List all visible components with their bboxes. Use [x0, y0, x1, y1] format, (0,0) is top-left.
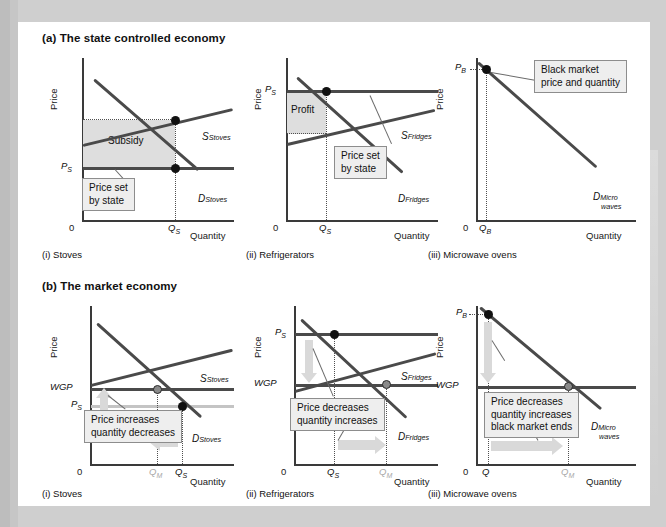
- x-tick-qb: QB: [479, 222, 491, 235]
- panel-a-iii: Price 0 Quantity PB QB DMicrowaves Black…: [428, 52, 638, 247]
- demand-curve-label: DFridges: [398, 194, 429, 204]
- y-tick-ps: PS: [275, 326, 286, 339]
- origin-label: 0: [69, 222, 74, 233]
- callout-price-decreases: Price decreasesquantity increases: [290, 398, 385, 431]
- qs-dotted-line: [326, 91, 327, 220]
- x-tick-qs: QS: [327, 466, 339, 479]
- y-tick-pb: PB: [456, 306, 467, 319]
- axis-label-price: Price: [434, 336, 445, 358]
- old-state-quantity-dot: [330, 330, 339, 339]
- y-tick-pb: PB: [455, 61, 466, 74]
- axis-label-price: Price: [48, 88, 59, 110]
- market-equilibrium-dot: [382, 380, 391, 389]
- axis-label-price: Price: [434, 88, 445, 110]
- x-tick-qm: QM: [149, 466, 162, 479]
- figure-sheet: (a) The state controlled economy Price 0…: [18, 22, 650, 506]
- panel-a-i: Price 0 Quantity Subsidy PS QS SStoves D…: [42, 52, 232, 247]
- axis-label-quantity: Quantity: [394, 230, 429, 241]
- x-axis: [82, 220, 234, 222]
- black-market-dot: [484, 310, 493, 319]
- axis-label-price: Price: [252, 88, 263, 110]
- equilibrium-dot-supply: [171, 116, 180, 125]
- qs-dotted-line: [182, 406, 183, 464]
- y-axis: [476, 58, 478, 222]
- old-state-price-line: [91, 405, 234, 408]
- y-tick-wgp: WGP: [436, 379, 459, 390]
- panel-caption-b-ii: (ii) Refrigerators: [246, 488, 314, 499]
- state-price-line: [83, 167, 234, 170]
- axis-label-price: Price: [48, 336, 59, 358]
- demand-curve-label: DStoves: [192, 434, 221, 444]
- panel-caption-a-i: (i) Stoves: [42, 249, 82, 260]
- supply-curve-label: SStoves: [202, 132, 231, 142]
- panel-caption-b-i: (i) Stoves: [42, 488, 82, 499]
- y-tick-ps: PS: [61, 160, 72, 173]
- world-price-line: [477, 386, 636, 389]
- x-tick-qm: QM: [561, 466, 574, 479]
- x-axis: [476, 220, 636, 222]
- state-price-dot: [322, 87, 331, 96]
- axis-label-price: Price: [252, 336, 263, 358]
- x-tick-qs: QS: [168, 222, 180, 235]
- market-equilibrium-dot: [153, 385, 162, 394]
- panel-a-ii: Price 0 Quantity Profit PS QS SFridges D…: [246, 52, 436, 247]
- y-tick-wgp: WGP: [50, 381, 73, 392]
- market-equilibrium-dot: [564, 382, 573, 391]
- axis-label-quantity: Quantity: [586, 230, 621, 241]
- panel-caption-a-iii: (iii) Microwave ovens: [428, 249, 517, 260]
- callout-price-set-by-state: Price setby state: [82, 178, 135, 211]
- callout-black-market: Black marketprice and quantity: [534, 60, 627, 93]
- qm-dotted-line: [386, 385, 387, 464]
- origin-label: 0: [77, 466, 82, 477]
- demand-curve-label: DFridges: [398, 432, 429, 442]
- equilibrium-dot-demand: [171, 164, 180, 173]
- origin-label: 0: [281, 466, 286, 477]
- x-tick-qm: QM: [379, 466, 392, 479]
- axis-label-quantity: Quantity: [190, 230, 225, 241]
- profit-label: Profit: [291, 104, 314, 115]
- callout-price-increases: Price increasesquantity decreases: [84, 410, 182, 443]
- section-title-b: (b) The market economy: [42, 280, 177, 292]
- origin-label: 0: [273, 222, 278, 233]
- axis-label-quantity: Quantity: [586, 476, 621, 487]
- demand-curve-label: DStoves: [198, 194, 227, 204]
- x-tick-qs: QS: [175, 466, 187, 479]
- origin-label: 0: [463, 222, 468, 233]
- price-guide-dotted: [83, 119, 175, 120]
- y-tick-ps: PS: [265, 83, 276, 96]
- panel-caption-b-iii: (iii) Microwave ovens: [428, 488, 517, 499]
- section-title-a: (a) The state controlled economy: [42, 32, 225, 44]
- origin-label: 0: [463, 466, 468, 477]
- panel-b-i: Price 0 Quantity WGP PS QM QS SStoves DS…: [42, 300, 232, 500]
- supply-curve-label: SStoves: [200, 374, 229, 384]
- y-axis: [286, 58, 288, 222]
- callout-price-set-by-state: Price setby state: [334, 146, 387, 179]
- axis-label-quantity: Quantity: [190, 476, 225, 487]
- panel-b-ii: Price 0 Quantity PS WGP QS QM SFridges D…: [246, 300, 436, 500]
- black-market-dot: [482, 65, 491, 74]
- demand-curve-label: DMicrowaves: [591, 422, 619, 441]
- x-tick-qs: QS: [319, 222, 331, 235]
- x-axis: [294, 464, 438, 466]
- y-tick-ps: PS: [71, 398, 82, 411]
- panel-caption-a-ii: (ii) Refrigerators: [246, 249, 314, 260]
- world-price-line: [91, 388, 234, 391]
- supply-guide-dotted: [287, 133, 326, 134]
- callout-price-decreases-black-market: Price decreasesquantity increasesblack m…: [484, 392, 579, 438]
- axis-label-quantity: Quantity: [394, 476, 429, 487]
- demand-curve-label: DMicrowaves: [593, 192, 621, 211]
- y-tick-wgp: WGP: [254, 377, 277, 388]
- qb-dotted-line: [486, 69, 487, 220]
- callout-leader-b3-up: [492, 340, 506, 361]
- panel-b-iii: Price 0 Quantity PB WGP Q QM DMicrowaves…: [428, 300, 638, 500]
- x-axis: [286, 220, 438, 222]
- x-tick-qb: Q: [482, 466, 489, 477]
- x-axis: [476, 464, 636, 466]
